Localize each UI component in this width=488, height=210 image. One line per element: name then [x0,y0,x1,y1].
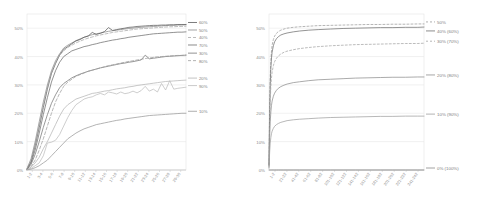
legend-label: 30% (70%) [437,39,459,44]
y-axis-tick-label: 0% [17,168,23,173]
y-axis-tick-label: 40% [256,55,265,60]
y-axis-tick-label: 30% [15,83,24,88]
legend-label: 10% (90%) [437,112,459,117]
x-axis-tick-label: 241-242 [406,171,419,187]
legend-entry[interactable]: 0% (100%) [426,166,459,171]
x-axis-tick-label: 5-6 [47,171,55,179]
legend-entry[interactable]: 50% [426,20,446,25]
y-axis-tick-label: 0% [259,168,265,173]
legend-entry[interactable]: 90% [188,84,208,89]
legend-label: 40% (60%) [437,29,459,34]
x-axis-tick-label: 81-82 [314,171,324,183]
left-chart-svg: 50%40%30%20%10%0%1-23-45-67-89-1011-1213… [0,0,244,210]
y-axis-tick-label: 20% [15,111,24,116]
legend-label: 80% [199,59,208,64]
y-axis-tick-label: 10% [15,140,24,145]
right-chart-svg: 50%40%30%20%10%0%1-221-2241-4261-6281-82… [244,0,488,210]
legend-entry[interactable]: 30% (70%) [426,39,459,44]
legend-label: 70% [199,43,208,48]
two-panel-line-chart-figure: 50%40%30%20%10%0%1-23-45-67-89-1011-1213… [0,0,488,210]
legend-label: 30% [199,51,208,56]
y-axis-tick-label: 40% [15,55,24,60]
x-axis-tick-label: 29-30 [172,171,182,183]
legend-entry[interactable]: 70% [188,43,208,48]
x-axis-tick-label: 15-16 [97,171,107,183]
legend-entry[interactable]: 80% [188,59,208,64]
legend-label: 0% (100%) [437,166,459,171]
x-axis-tick-label: 41-42 [290,171,300,183]
y-axis-tick-label: 50% [256,26,265,31]
x-axis-tick-label: 21-22 [129,171,139,183]
x-axis-tick-label: 61-62 [302,171,312,183]
x-axis-tick-label: 27-28 [161,171,171,183]
y-axis-tick-label: 10% [256,140,265,145]
legend-label: 90% [199,84,208,89]
x-axis-tick-label: 1-2 [26,171,34,179]
legend-label: 60% [199,20,208,25]
left-chart-panel: 50%40%30%20%10%0%1-23-45-67-89-1011-1213… [0,0,244,210]
legend-entry[interactable]: 10% (90%) [426,112,459,117]
x-axis-tick-label: 13-14 [87,171,97,183]
legend-label: 10% [199,109,208,114]
x-axis-tick-label: 19-20 [119,171,129,183]
x-axis-tick-label: 25-26 [150,171,160,183]
x-axis-tick-label: 1-2 [268,171,276,179]
legend-label: 50% [199,28,208,33]
legend-entry[interactable]: 10% [188,109,208,114]
legend-entry[interactable]: 30% [188,51,208,56]
y-axis-tick-label: 20% [256,111,265,116]
right-chart-panel: 50%40%30%20%10%0%1-221-2241-4261-6281-82… [244,0,488,210]
legend-entry[interactable]: 20% (80%) [426,73,459,78]
x-axis-tick-label: 21-22 [278,171,288,183]
legend-entry[interactable]: 50% [188,28,208,33]
x-axis-tick-label: 23-24 [140,171,150,183]
legend-label: 50% [437,20,446,25]
legend-entry[interactable]: 20% [188,76,208,81]
legend-label: 40% [199,35,208,40]
legend-entry[interactable]: 40% (60%) [426,29,459,34]
x-axis-tick-label: 3-4 [36,171,44,179]
legend-label: 20% (80%) [437,73,459,78]
legend-entry[interactable]: 40% [188,35,208,40]
y-axis-tick-label: 50% [15,26,24,31]
legend-entry[interactable]: 60% [188,20,208,25]
legend-label: 20% [199,76,208,81]
x-axis-tick-label: 11-12 [76,171,86,183]
x-axis-tick-label: 7-8 [58,171,66,179]
y-axis-tick-label: 30% [256,83,265,88]
x-axis-tick-label: 9-10 [67,171,76,181]
x-axis-tick-label: 17-18 [108,171,118,183]
